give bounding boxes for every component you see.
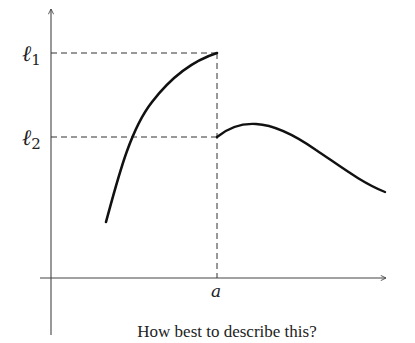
a-label: a: [211, 281, 221, 301]
l2-label: ℓ2: [22, 125, 41, 153]
right-branch-curve: [217, 124, 385, 192]
function-graph: ℓ1 ℓ2 a How best to describe this?: [0, 0, 415, 343]
caption: How best to describe this?: [137, 322, 316, 341]
l1-label: ℓ1: [22, 41, 41, 69]
